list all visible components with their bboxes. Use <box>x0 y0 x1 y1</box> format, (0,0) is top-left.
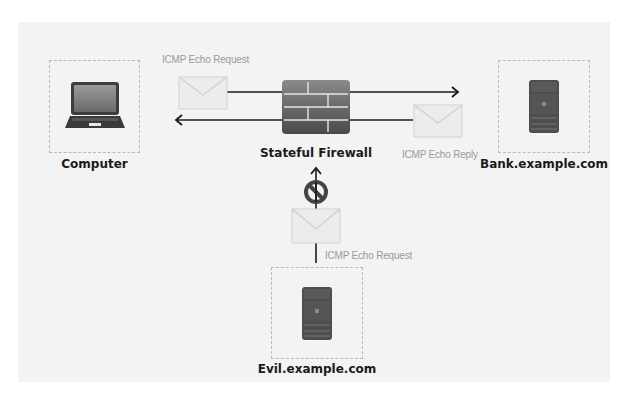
server-icon <box>529 80 559 133</box>
evil-echo-request-label: ICMP Echo Request <box>325 250 412 261</box>
bank-label: Bank.example.com <box>480 157 606 171</box>
echo-reply-label: ICMP Echo Reply <box>402 149 478 160</box>
computer-label: Computer <box>49 157 140 171</box>
server-icon <box>302 287 332 340</box>
prohibited-icon <box>304 180 328 204</box>
laptop-icon <box>64 80 126 132</box>
envelope-icon <box>178 76 228 110</box>
envelope-icon <box>291 208 341 244</box>
envelope-icon <box>413 104 463 138</box>
echo-request-label: ICMP Echo Request <box>162 54 249 65</box>
firewall-brick-icon <box>282 80 350 134</box>
evil-label: Evil.example.com <box>254 362 380 376</box>
firewall-label: Stateful Firewall <box>256 146 376 160</box>
